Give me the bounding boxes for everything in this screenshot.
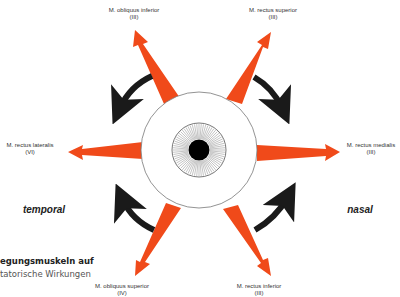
pupil [189,140,210,161]
eyeball [141,92,257,208]
side-label-nasal: nasal [347,204,373,215]
arrow-rectus-lateralis [68,142,143,160]
label-obliquus-superior: M. obliquus superior (IV) [95,283,149,297]
nerve-number: (III) [249,14,297,21]
nerve-number: (III) [237,290,282,297]
arrow-rectus-inferior [223,205,271,276]
label-rectus-superior: M. rectus superior (III) [249,7,297,21]
caption-line-2: tatorische Wirkungen [0,269,91,279]
arrow-obliquus-inferior [133,30,180,104]
muscle-name: M. rectus inferior [237,283,282,290]
muscle-name: M. rectus lateralis [6,142,53,149]
nerve-number: (III) [109,14,160,21]
eye-muscles-diagram: M. obliquus inferior (III) M. rectus sup… [0,0,400,297]
rotation-arrow-lower-right [255,198,287,230]
arrow-rectus-superior [226,32,271,104]
label-rectus-medialis: M. rectus medialis (III) [347,142,395,156]
arrow-rectus-medialis [257,144,340,161]
arrow-obliquus-superior [135,203,181,276]
muscle-name: M. rectus superior [249,7,297,14]
diagram-canvas [0,0,400,297]
label-rectus-inferior: M. rectus inferior (III) [237,283,282,297]
muscle-name: M. rectus medialis [347,142,395,149]
rotation-arrow-upper-right [254,77,282,108]
label-obliquus-inferior: M. obliquus inferior (III) [109,7,160,21]
muscle-name: M. obliquus inferior [109,7,160,14]
rotation-arrow-upper-left [120,76,152,108]
side-label-temporal: temporal [23,204,65,215]
nerve-number: (III) [347,149,395,156]
nerve-number: (IV) [95,290,149,297]
nerve-number: (VI) [6,149,53,156]
muscle-name: M. obliquus superior [95,283,149,290]
label-rectus-lateralis: M. rectus lateralis (VI) [6,142,53,156]
rotation-arrow-lower-left [123,200,154,230]
caption-line-1: egungsmuskeln auf [0,256,94,266]
